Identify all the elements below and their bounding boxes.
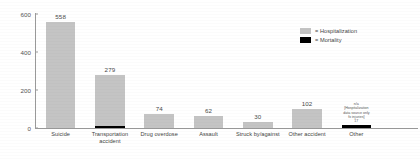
bar-segment-hospitalization (243, 122, 273, 128)
category-label-drug-overdose: Drug overdose (135, 131, 184, 138)
category-label-suicide: Suicide (36, 131, 85, 138)
y-axis-tick-label: 200 (20, 87, 36, 94)
bar-value-label: 30 (254, 113, 261, 120)
bar-segment-mortality (342, 125, 372, 128)
bar-segment-hospitalization (144, 114, 174, 128)
legend-label-hospitalization: = Hospitalization (315, 28, 357, 34)
legend-item-hospitalization: = Hospitalization (300, 28, 357, 34)
x-axis-line (35, 128, 418, 129)
category-label-transportation-accident: Transportation accident (85, 131, 134, 145)
bar-segment-hospitalization (95, 75, 125, 128)
bar-segment-hospitalization (194, 116, 224, 128)
category-label-struck-by-against: Struck by/against (233, 131, 282, 138)
bar-value-label: 62 (205, 107, 212, 114)
bar-group: 74 (144, 14, 174, 128)
bar-value-label: 102 (302, 100, 313, 107)
bar-group: 62 (194, 14, 224, 128)
bar-group: 30 (243, 14, 273, 128)
bar-chart: 558279746230102n/a [Hospitalization data… (0, 0, 420, 159)
y-axis-tick-label: 600 (20, 11, 36, 18)
bar-annotation-note: n/a [Hospitalization data source only fx… (327, 102, 385, 124)
y-axis-tick-mark (35, 52, 38, 53)
y-axis-tick-mark (35, 128, 38, 129)
bar-group: 279 (95, 14, 125, 128)
bar-group: 558 (46, 14, 76, 128)
legend-swatch-mortality (300, 37, 311, 43)
bar-value-label: 279 (105, 66, 116, 73)
bar-value-label: 74 (156, 105, 163, 112)
bar-segment-hospitalization (292, 109, 322, 128)
bar-value-label: 558 (55, 13, 66, 20)
y-axis-tick-mark (35, 90, 38, 91)
bar-segment-hospitalization (46, 22, 76, 128)
legend-swatch-hospitalization (300, 28, 311, 34)
legend-item-mortality: = Mortality (300, 37, 357, 43)
legend-label-mortality: = Mortality (315, 37, 342, 43)
y-axis-tick-mark (35, 14, 38, 15)
bar-segment-mortality (95, 126, 125, 128)
y-axis-tick-label: 400 (20, 49, 36, 56)
chart-legend: = Hospitalization = Mortality (300, 28, 357, 46)
category-label-other-accident: Other accident (282, 131, 331, 138)
category-label-assault: Assault (184, 131, 233, 138)
category-label-other: Other (332, 131, 381, 138)
